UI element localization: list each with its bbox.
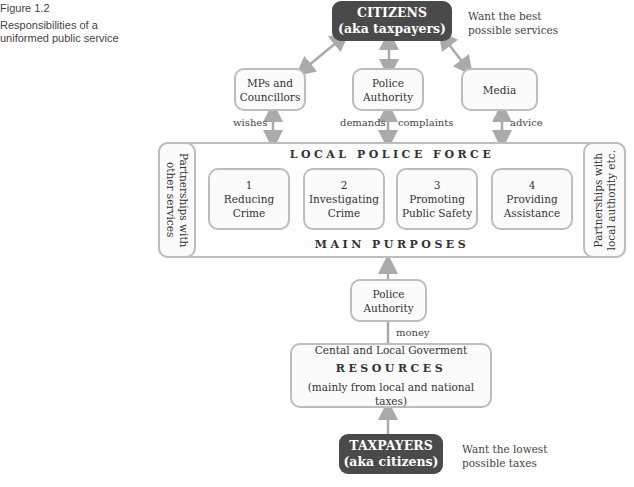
taxpayers-note: Want the lowest possible taxes bbox=[462, 442, 547, 470]
mps-councillors-box: MPs and Councillors bbox=[234, 68, 306, 111]
main-purposes-label: MAIN PURPOSES bbox=[158, 238, 626, 251]
figure-number: Figure 1.2 bbox=[0, 1, 50, 15]
citizens-box: CITIZENS (aka taxpayers) bbox=[332, 1, 452, 41]
local-police-force-title: LOCAL POLICE FORCE bbox=[158, 148, 626, 161]
partnership-local-authority: Partnerships with local authority etc. bbox=[583, 142, 626, 258]
wishes-label: wishes bbox=[233, 117, 267, 128]
taxpayers-box: TAXPAYERS (aka citizens) bbox=[339, 434, 443, 474]
money-label: money bbox=[396, 327, 430, 338]
funding-police-authority-box: Police Authority bbox=[350, 279, 427, 322]
citizens-title: CITIZENS bbox=[332, 5, 452, 21]
advice-label: advice bbox=[510, 117, 543, 128]
demands-label: demands bbox=[340, 117, 386, 128]
media-box: Media bbox=[461, 68, 538, 111]
figure-caption-line1: Responsibilities of a bbox=[0, 18, 98, 32]
purpose-promoting-public-safety: 3 Promoting Public Safety bbox=[396, 168, 478, 230]
purpose-providing-assistance: 4 Providing Assistance bbox=[491, 168, 573, 230]
purpose-investigating-crime: 2 Investigating Crime bbox=[303, 168, 385, 230]
citizens-note: Want the best possible services bbox=[468, 9, 558, 37]
figure-caption-line2: uniformed public service bbox=[0, 31, 119, 45]
partnership-other-services: Partnerships with other services bbox=[158, 142, 196, 258]
police-authority-box: Police Authority bbox=[352, 68, 424, 111]
resources-box: Cental and Local Goverment RESOURCES (ma… bbox=[290, 343, 492, 408]
purpose-reducing-crime: 1 Reducing Crime bbox=[208, 168, 290, 230]
complaints-label: complaints bbox=[398, 117, 453, 128]
citizens-subtitle: (aka taxpayers) bbox=[332, 21, 452, 37]
